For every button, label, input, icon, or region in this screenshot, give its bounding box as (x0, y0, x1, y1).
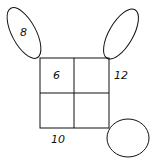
bottom-side-label: 10 (51, 133, 65, 146)
puzzle-diagram (0, 0, 157, 165)
top-left-oval-value: 8 (20, 26, 27, 39)
bottom-right-oval (107, 119, 149, 157)
cell-top-left-value: 6 (53, 69, 60, 82)
top-right-oval (97, 4, 146, 64)
right-side-label: 12 (114, 69, 128, 82)
